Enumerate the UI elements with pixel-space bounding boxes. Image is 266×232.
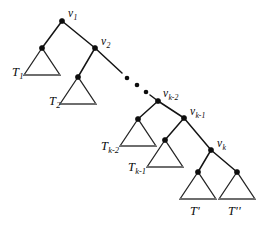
subtree-triangle-tprime — [180, 172, 216, 199]
node-dot-v1 — [59, 18, 64, 23]
node-dot-t1-apex — [39, 45, 44, 50]
node-dot-vk2 — [155, 98, 160, 103]
edge-v1-v2 — [62, 21, 95, 48]
edge-vk1-tk1 — [165, 118, 184, 140]
node-dot-tk2-apex — [135, 116, 140, 121]
ellipsis-dot-2 — [135, 83, 140, 88]
subtree-triangle-t1 — [24, 48, 60, 75]
edge-vk-tprime — [198, 150, 211, 172]
triangle-t2 — [60, 77, 96, 104]
triangle-tprime — [180, 172, 216, 199]
edge-vk-tdprime — [211, 150, 237, 172]
edge-vk2-tk2 — [138, 101, 158, 119]
node-dot-tdprime-apex — [234, 169, 239, 174]
ellipsis-dot-1 — [125, 76, 130, 81]
subtree-label-tk1: Tk-1 — [128, 161, 146, 174]
node-label-vk1: vk-1 — [190, 106, 205, 118]
ellipsis-dot-3 — [144, 90, 149, 95]
subtree-triangle-tdprime — [219, 172, 255, 199]
subtree-label-tk2: Tk-2 — [101, 140, 119, 153]
subtree-label-t1: T1 — [12, 66, 23, 79]
node-dot-t2-apex — [75, 74, 80, 79]
edge-v1-t1 — [42, 21, 62, 48]
node-label-vk2: vk-2 — [163, 88, 178, 100]
triangle-tk2 — [120, 119, 156, 146]
edge-v2-ellipsis — [95, 48, 122, 73]
node-label-v1: v1 — [68, 8, 77, 20]
tree-diagram-figure: v1 v2 vk-2 vk-1 vk T1 T2 Tk-2 Tk-1 T' T'… — [0, 0, 266, 232]
node-dot-vk1 — [181, 115, 186, 120]
node-label-v2: v2 — [101, 36, 110, 48]
subtree-label-tprime: T' — [190, 205, 200, 218]
subtree-triangle-tk2 — [120, 119, 156, 146]
node-dot-tprime-apex — [195, 169, 200, 174]
edge-vk2-vk1 — [158, 101, 184, 118]
subtree-label-t2: T2 — [49, 95, 60, 108]
node-label-vk: vk — [217, 138, 226, 150]
node-dot-v2 — [92, 45, 97, 50]
ellipsis-dots — [125, 76, 149, 95]
subtree-triangle-group — [24, 48, 255, 199]
subtree-label-tdprime: T'' — [228, 205, 241, 218]
triangle-t1 — [24, 48, 60, 75]
edge-vk1-vk — [184, 118, 211, 150]
subtree-triangle-t2 — [60, 77, 96, 104]
node-dot-vk — [208, 147, 213, 152]
tree-diagram-canvas — [0, 0, 266, 232]
node-dot-tk1-apex — [162, 137, 167, 142]
triangle-tdprime — [219, 172, 255, 199]
edge-v2-t2 — [78, 48, 95, 77]
